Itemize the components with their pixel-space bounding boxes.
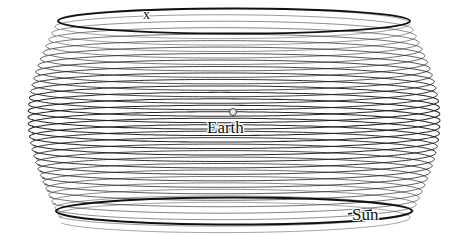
sun-label: Sun — [352, 206, 378, 223]
earth-marker-icon — [229, 108, 237, 116]
helix-figure: x Earth Sun — [0, 0, 465, 235]
earth-label: Earth — [207, 119, 244, 136]
axis-label-x: x — [143, 8, 150, 22]
